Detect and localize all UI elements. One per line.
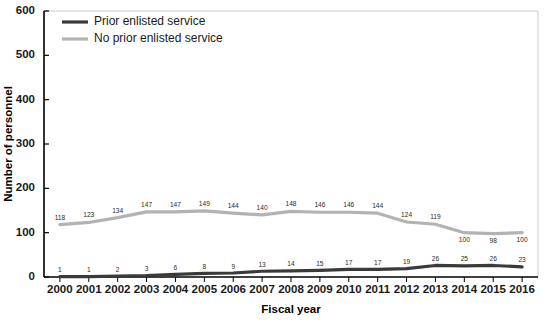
data-label: 100 xyxy=(459,236,470,243)
data-label: 134 xyxy=(112,207,123,214)
x-tick-label: 2007 xyxy=(249,283,275,295)
x-tick-label: 2001 xyxy=(76,283,102,295)
data-label: 26 xyxy=(432,255,440,262)
data-label: 119 xyxy=(430,213,441,220)
data-label: 2 xyxy=(116,266,120,273)
data-label: 3 xyxy=(145,265,149,272)
x-tick-label: 2015 xyxy=(480,283,506,295)
data-label: 123 xyxy=(83,211,94,218)
data-label: 147 xyxy=(170,201,181,208)
x-tick-label: 2000 xyxy=(47,283,73,295)
data-label: 146 xyxy=(343,201,354,208)
data-label: 15 xyxy=(316,260,324,267)
data-label: 147 xyxy=(141,201,152,208)
data-label: 17 xyxy=(345,259,353,266)
x-tick-label: 2016 xyxy=(509,283,535,295)
y-tick-label: 300 xyxy=(16,137,35,149)
y-tick-label: 100 xyxy=(16,226,35,238)
chart-legend: Prior enlisted serviceNo prior enlisted … xyxy=(62,14,223,45)
x-tick-label: 2013 xyxy=(423,283,449,295)
data-label: 8 xyxy=(202,263,206,270)
data-label: 118 xyxy=(55,214,66,221)
data-label: 1 xyxy=(58,266,62,273)
legend-label-1: No prior enlisted service xyxy=(94,31,223,45)
x-tick-label: 2008 xyxy=(278,283,304,295)
data-label: 9 xyxy=(231,263,235,270)
x-tick-label: 2009 xyxy=(307,283,333,295)
data-label: 14 xyxy=(287,260,295,267)
data-label: 124 xyxy=(401,211,412,218)
x-axis-title: Fiscal year xyxy=(261,303,321,315)
data-label: 144 xyxy=(228,202,239,209)
y-tick-label: 600 xyxy=(16,4,35,16)
data-label: 17 xyxy=(374,259,382,266)
y-tick-label: 200 xyxy=(16,181,35,193)
data-label: 100 xyxy=(517,236,528,243)
data-label: 144 xyxy=(372,202,383,209)
data-label: 140 xyxy=(257,204,268,211)
data-label: 19 xyxy=(403,258,411,265)
x-tick-label: 2010 xyxy=(336,283,362,295)
x-tick-label: 2014 xyxy=(452,283,478,295)
data-label: 1 xyxy=(87,266,91,273)
x-axis: 2000200120022003200420052006200720082009… xyxy=(44,277,538,315)
data-label: 25 xyxy=(461,255,469,262)
data-label: 13 xyxy=(258,261,266,268)
x-tick-label: 2003 xyxy=(134,283,160,295)
y-tick-label: 0 xyxy=(29,270,35,282)
x-tick-label: 2012 xyxy=(394,283,420,295)
data-label: 6 xyxy=(174,264,178,271)
data-label: 23 xyxy=(518,256,526,263)
y-axis: 0100200300400500600 Number of personnel xyxy=(2,4,49,282)
data-label: 98 xyxy=(490,237,498,244)
y-tick-label: 400 xyxy=(16,93,35,105)
x-tick-label: 2005 xyxy=(192,283,218,295)
line-chart: 0100200300400500600 Number of personnel … xyxy=(0,0,560,325)
data-label: 146 xyxy=(314,201,325,208)
data-label: 149 xyxy=(199,200,210,207)
x-tick-label: 2004 xyxy=(163,283,189,295)
legend-label-0: Prior enlisted service xyxy=(94,14,206,28)
data-label: 26 xyxy=(490,255,498,262)
y-axis-title: Number of personnel xyxy=(2,86,14,202)
x-tick-label: 2002 xyxy=(105,283,131,295)
x-tick-label: 2006 xyxy=(220,283,246,295)
data-label: 148 xyxy=(285,200,296,207)
x-tick-label: 2011 xyxy=(365,283,391,295)
series-line-1 xyxy=(60,211,522,234)
y-tick-label: 500 xyxy=(16,48,35,60)
chart-page: 0100200300400500600 Number of personnel … xyxy=(0,0,560,325)
